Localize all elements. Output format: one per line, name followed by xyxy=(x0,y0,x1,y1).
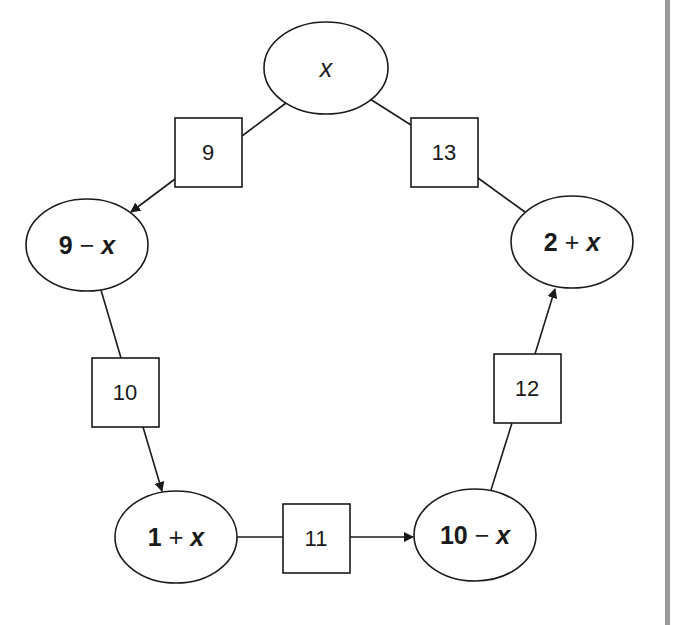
node-bottom-right-label: 10 − x xyxy=(440,521,511,549)
box-10: 10 xyxy=(92,358,159,427)
box-12-label: 12 xyxy=(515,376,539,401)
node-top: x xyxy=(264,22,388,114)
edge-right-node-to-box-13 xyxy=(478,178,525,212)
cycle-diagram: x 9 − x 2 + x 1 + x 10 − x 9 13 10 11 12 xyxy=(0,0,680,625)
box-13-label: 13 xyxy=(432,140,456,165)
node-left-label: 9 − x xyxy=(59,231,116,259)
node-bottom-right: 10 − x xyxy=(414,489,536,581)
box-12: 12 xyxy=(494,354,561,423)
node-left: 9 − x xyxy=(26,199,148,291)
edge-box-10-to-bottom-left-node xyxy=(143,427,162,491)
box-10-label: 10 xyxy=(113,380,137,405)
edge-box-9-to-left-node xyxy=(131,179,175,212)
edge-top-to-box-9 xyxy=(242,103,286,136)
box-11: 11 xyxy=(283,504,350,573)
node-bottom-left-label: 1 + x xyxy=(148,523,205,551)
node-top-label: x xyxy=(319,54,334,82)
edge-box-13-to-top xyxy=(370,99,411,125)
node-right-label: 2 + x xyxy=(544,228,601,256)
edge-box-12-to-right-node xyxy=(535,289,555,354)
box-13: 13 xyxy=(411,118,478,187)
node-right: 2 + x xyxy=(511,196,633,288)
edge-left-node-to-box-10 xyxy=(101,290,121,358)
box-11-label: 11 xyxy=(305,526,328,551)
edge-bottom-right-to-box-12 xyxy=(491,423,512,490)
node-bottom-left: 1 + x xyxy=(115,491,237,583)
box-9-label: 9 xyxy=(202,140,214,165)
box-9: 9 xyxy=(175,118,242,187)
page-edge-bar xyxy=(665,0,670,625)
